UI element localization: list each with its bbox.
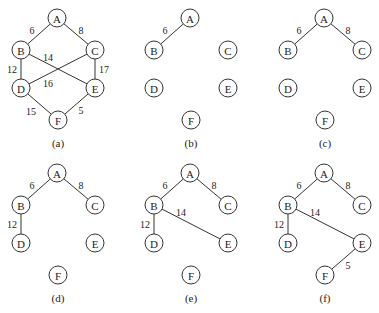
node-E: E	[353, 79, 371, 97]
edge-weight-D-F: 15	[26, 106, 36, 117]
node-F: F	[316, 111, 334, 129]
edge-weight-A-C: 8	[79, 25, 84, 36]
node-C: C	[219, 196, 237, 214]
edge-weight-A-C: 8	[346, 180, 351, 191]
node-D: D	[12, 79, 30, 97]
node-label: C	[224, 45, 231, 57]
node-A: A	[315, 9, 333, 27]
kruskal-mst-diagram: 6812141617155ABCDEF(a)6ABCDEF(b)68ABCDEF…	[0, 0, 379, 313]
node-label: C	[224, 200, 231, 212]
node-F: F	[316, 266, 334, 284]
node-label: E	[92, 238, 99, 250]
node-label: C	[358, 45, 365, 57]
node-label: C	[91, 200, 98, 212]
node-label: C	[358, 200, 365, 212]
node-label: A	[320, 168, 328, 180]
node-B: B	[279, 41, 297, 59]
edge-weight-A-C: 8	[212, 180, 217, 191]
edge-weight-C-D: 16	[43, 78, 53, 89]
caption-a: (a)	[52, 137, 65, 150]
node-B: B	[145, 196, 163, 214]
node-label: F	[322, 270, 328, 282]
node-label: D	[284, 83, 292, 95]
edge-weight-B-D: 12	[140, 219, 150, 230]
panel-e: 681214ABCDEF(e)	[140, 164, 237, 305]
node-F: F	[182, 266, 200, 284]
edge-weight-B-E: 14	[176, 207, 186, 218]
node-label: E	[92, 83, 99, 95]
node-C: C	[353, 41, 371, 59]
edge-weight-B-D: 12	[7, 64, 17, 75]
node-F: F	[49, 111, 67, 129]
node-label: E	[225, 238, 232, 250]
node-A: A	[315, 164, 333, 182]
edge-weight-A-B: 6	[297, 25, 302, 36]
caption-e: (e)	[185, 292, 198, 305]
node-label: B	[284, 45, 291, 57]
node-label: D	[150, 238, 158, 250]
node-E: E	[86, 234, 104, 252]
node-E: E	[86, 79, 104, 97]
node-A: A	[181, 9, 199, 27]
node-B: B	[12, 41, 30, 59]
node-C: C	[219, 41, 237, 59]
node-label: A	[53, 13, 61, 25]
node-C: C	[86, 196, 104, 214]
node-label: C	[91, 45, 98, 57]
node-B: B	[279, 196, 297, 214]
edge-weight-A-C: 8	[346, 25, 351, 36]
panel-c: 68ABCDEF(c)	[279, 9, 371, 150]
caption-c: (c)	[319, 137, 332, 150]
edge-weight-B-D: 12	[274, 219, 284, 230]
node-label: A	[186, 168, 194, 180]
node-D: D	[279, 234, 297, 252]
node-D: D	[145, 79, 163, 97]
edge-weight-A-B: 6	[30, 180, 35, 191]
panel-f: 6812145ABCDEF(f)	[274, 164, 371, 305]
edge-weight-A-C: 8	[79, 180, 84, 191]
node-D: D	[279, 79, 297, 97]
panel-a: 6812141617155ABCDEF(a)	[7, 9, 109, 150]
node-label: B	[17, 45, 24, 57]
node-F: F	[182, 111, 200, 129]
edge-weight-A-B: 6	[163, 25, 168, 36]
node-D: D	[12, 234, 30, 252]
edge-A-C	[64, 24, 88, 44]
node-F: F	[49, 266, 67, 284]
node-C: C	[86, 41, 104, 59]
node-E: E	[219, 79, 237, 97]
panel-d: 6812ABCDEF(d)	[7, 164, 104, 305]
node-A: A	[48, 9, 66, 27]
node-label: B	[17, 200, 24, 212]
node-A: A	[181, 164, 199, 182]
node-label: D	[284, 238, 292, 250]
node-B: B	[145, 41, 163, 59]
edge-E-F	[65, 94, 88, 114]
edge-weight-C-E: 17	[99, 64, 109, 75]
node-label: D	[17, 238, 25, 250]
node-label: E	[359, 238, 366, 250]
node-label: A	[320, 13, 328, 25]
edge-B-E	[162, 209, 220, 239]
edge-A-C	[64, 179, 88, 199]
edge-E-F	[332, 249, 355, 269]
node-label: F	[55, 115, 61, 127]
node-label: B	[150, 200, 157, 212]
node-label: F	[55, 270, 61, 282]
node-D: D	[145, 234, 163, 252]
edge-B-E	[296, 209, 354, 239]
edge-weight-B-E: 14	[43, 52, 53, 63]
node-label: B	[284, 200, 291, 212]
caption-f: (f)	[320, 292, 331, 305]
node-label: E	[359, 83, 366, 95]
edge-weight-A-B: 6	[163, 180, 168, 191]
node-label: D	[150, 83, 158, 95]
node-B: B	[12, 196, 30, 214]
edge-weight-E-F: 5	[346, 260, 351, 271]
edge-A-C	[331, 179, 355, 199]
caption-b: (b)	[185, 137, 198, 150]
node-label: A	[53, 168, 61, 180]
node-label: F	[188, 270, 194, 282]
edge-A-C	[331, 24, 355, 44]
edge-weight-A-B: 6	[30, 25, 35, 36]
